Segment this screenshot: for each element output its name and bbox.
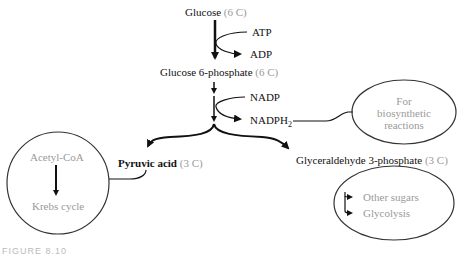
glycolysis-label: Glycolysis [363, 207, 410, 219]
acetyl-coa-label: Acetyl-CoA [30, 151, 84, 163]
g3p-name: Glyceraldehyde 3-phosphate [296, 154, 422, 166]
to-glycolysis-arrow [345, 196, 351, 213]
pyruvic-name: Pyruvic acid [118, 157, 177, 169]
pyruvic-carbons: 3 C [183, 157, 199, 169]
pyruvic-acid-label: Pyruvic acid (3 C) [118, 157, 203, 169]
krebs-cycle-label: Krebs cycle [32, 200, 84, 212]
g6p-carbons: 6 C [259, 66, 275, 78]
glucose-carbons: 6 C [227, 6, 243, 18]
adp-label: ADP [250, 48, 272, 60]
split-to-pyruvic-arrow [148, 124, 214, 146]
nadp-to-nadph2-curve [216, 97, 245, 119]
g6p-name: Glucose 6-phosphate [160, 66, 253, 78]
figure-caption: FIGURE 8.10 [2, 246, 67, 256]
biosynthetic-line2: biosynthetic [352, 107, 456, 119]
pyruvic-connector [109, 170, 146, 179]
atp-to-adp-curve [216, 32, 247, 54]
other-sugars-label: Other sugars [363, 191, 419, 203]
nadph-subscript: 2 [288, 120, 292, 129]
g3p-carbons: 3 C [429, 154, 445, 166]
nadp-label: NADP [250, 91, 280, 103]
g6p-label: Glucose 6-phosphate (6 C) [160, 66, 278, 78]
glucose-label: Glucose (6 C) [185, 6, 247, 18]
biosynthetic-line3: reactions [352, 119, 456, 131]
glucose-name: Glucose [185, 6, 221, 18]
biosynthetic-reactions-text: For biosynthetic reactions [352, 95, 456, 131]
to-other-sugars-arrow [345, 192, 351, 197]
biosynthetic-line1: For [352, 95, 456, 107]
atp-label: ATP [252, 26, 272, 38]
nadph2-connector [293, 112, 353, 121]
nadph2-label: NADPH2 [250, 114, 292, 131]
glycolysis-ellipse [334, 166, 454, 240]
g3p-label: Glyceraldehyde 3-phosphate (3 C) [296, 154, 448, 166]
krebs-cycle-circle [7, 132, 109, 234]
nadph-text: NADPH [250, 114, 288, 126]
